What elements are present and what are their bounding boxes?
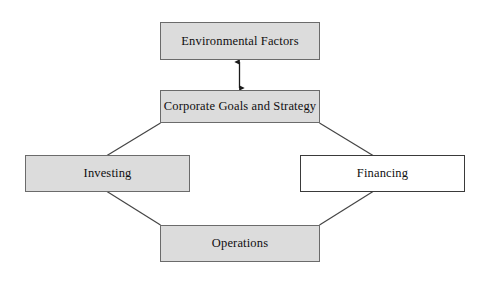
node-investing[interactable]: Investing — [25, 155, 190, 192]
connector-goals-to-financing — [320, 123, 374, 156]
node-financing[interactable]: Financing — [300, 155, 465, 192]
node-environmental-factors-label: Environmental Factors — [181, 34, 298, 47]
connector-investing-to-operations — [107, 192, 161, 226]
node-corporate-goals[interactable]: Corporate Goals and Strategy — [160, 90, 320, 123]
node-investing-label: Investing — [84, 167, 132, 180]
node-corporate-goals-label: Corporate Goals and Strategy — [164, 100, 316, 113]
node-financing-label: Financing — [357, 167, 408, 180]
connector-financing-to-operations — [320, 192, 374, 226]
node-environmental-factors[interactable]: Environmental Factors — [160, 22, 320, 60]
node-operations-label: Operations — [212, 237, 268, 250]
node-operations[interactable]: Operations — [160, 225, 320, 262]
diagram-canvas: Environmental Factors Corporate Goals an… — [0, 0, 480, 289]
connector-goals-to-investing — [107, 123, 161, 156]
